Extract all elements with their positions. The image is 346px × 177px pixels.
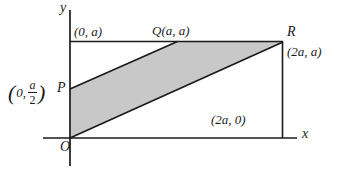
p-coord-open-paren: (	[8, 82, 15, 104]
point-p-coord-label: ( 0, a 2 )	[8, 79, 45, 106]
fraction-a-over-2: a 2	[28, 79, 37, 106]
y-axis-label-x: x	[302, 127, 308, 141]
y-axis-label-y: y	[60, 1, 66, 15]
point-r-coord-label: (2a, a)	[287, 45, 322, 58]
top-left-coord-label: (0, a)	[74, 25, 102, 38]
point-p-label: P	[57, 81, 66, 95]
bottom-right-coord-label: (2a, 0)	[211, 113, 246, 126]
fraction-numerator: a	[29, 79, 37, 92]
point-r-label: R	[287, 25, 296, 39]
fraction-denominator: 2	[29, 93, 37, 106]
origin-label: O	[60, 140, 70, 154]
geometry-figure: x y O (0, a) Q(a, a) R (2a, a) (2a, 0) P…	[0, 0, 346, 177]
p-coord-prefix: 0,	[16, 86, 26, 99]
p-coord-close-paren: )	[38, 82, 45, 104]
point-q-label: Q(a, a)	[152, 24, 190, 37]
